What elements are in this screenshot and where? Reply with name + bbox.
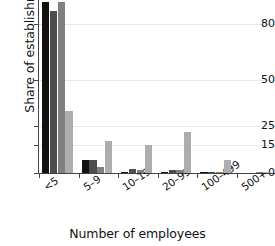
bar xyxy=(216,172,223,173)
bar xyxy=(105,141,112,173)
bar xyxy=(161,172,168,173)
bar xyxy=(42,2,49,173)
y-tick-mark xyxy=(34,80,38,81)
bar xyxy=(50,11,57,173)
bar xyxy=(82,160,89,173)
bar xyxy=(200,172,207,173)
x-tick-label: 5–9 xyxy=(81,173,103,193)
y-axis-title: Share of establishments (%) xyxy=(22,0,37,113)
bar xyxy=(58,2,65,173)
x-tick-mark xyxy=(39,174,40,178)
y-tick-mark xyxy=(34,24,38,25)
y-tick-mark xyxy=(34,173,38,174)
y-tick-mark xyxy=(34,145,38,146)
bar xyxy=(129,169,136,173)
bar xyxy=(256,172,263,173)
bar xyxy=(176,170,183,173)
x-axis-title: Number of employees xyxy=(0,226,275,241)
y-tick-mark xyxy=(34,126,38,127)
x-tick-mark xyxy=(237,174,238,178)
bar xyxy=(137,170,144,173)
x-tick-label: <5 xyxy=(41,174,60,192)
x-tick-mark xyxy=(158,174,159,178)
bar xyxy=(145,145,152,173)
bar xyxy=(224,160,231,173)
bar xyxy=(184,132,191,173)
bar xyxy=(89,160,96,173)
bar xyxy=(208,172,215,173)
x-tick-mark xyxy=(118,174,119,178)
bar xyxy=(263,172,270,173)
bar xyxy=(65,111,72,173)
bar xyxy=(169,170,176,173)
bar xyxy=(97,167,104,173)
bars-layer xyxy=(39,0,275,173)
x-axis-line xyxy=(38,173,275,174)
chart-figure: Share of establishments (%) 015255080 <5… xyxy=(0,0,275,246)
bar xyxy=(121,172,128,173)
x-tick-mark xyxy=(79,174,80,178)
x-tick-mark xyxy=(197,174,198,178)
